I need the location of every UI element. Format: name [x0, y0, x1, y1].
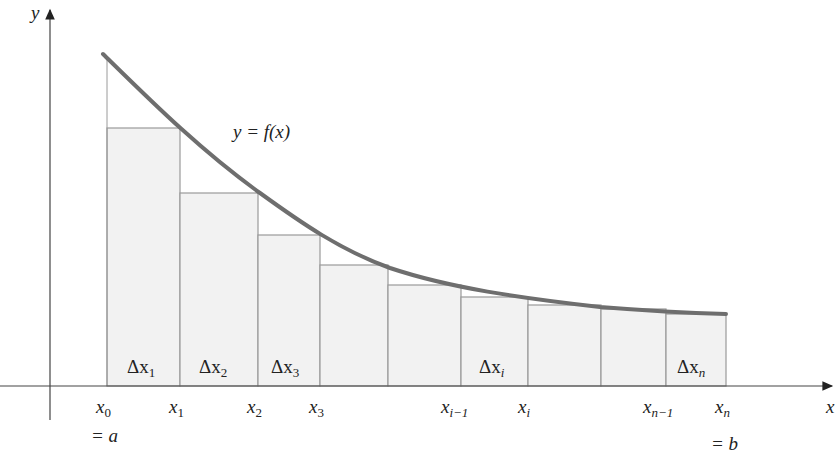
delta-x1-label: Δx1	[127, 357, 155, 379]
endpoint-a-note: = a	[91, 426, 118, 445]
endpoint-b-note: = b	[711, 434, 738, 453]
riemann-rectangle-1	[107, 128, 180, 386]
tick-x0: x0	[96, 397, 111, 419]
riemann-rectangle-5	[388, 285, 461, 386]
y-axis-label: y	[31, 3, 39, 22]
riemann-rectangle-4	[320, 265, 388, 386]
delta-xi-label: Δxi	[479, 357, 504, 379]
delta-x3-label: Δx3	[271, 357, 299, 379]
delta-xn-label: Δxn	[677, 357, 705, 379]
tick-x-n-minus-1: xn−1	[643, 397, 673, 419]
riemann-rectangle-7	[528, 305, 601, 386]
tick-x1: x1	[169, 397, 184, 419]
riemann-rectangles	[107, 128, 726, 386]
x-axis-label: x	[826, 397, 834, 416]
delta-x2-label: Δx2	[199, 357, 227, 379]
tick-x-i: xi	[518, 397, 530, 419]
tick-x3: x3	[309, 397, 324, 419]
curve-label: y = f(x)	[233, 122, 290, 141]
tick-x-i-minus-1: xi−1	[441, 397, 468, 419]
tick-x-n: xn	[715, 397, 730, 419]
tick-x2: x2	[247, 397, 262, 419]
riemann-rectangle-8	[601, 309, 666, 386]
